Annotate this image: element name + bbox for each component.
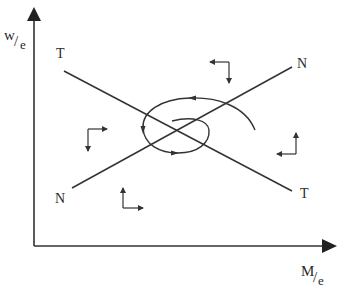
label-t-end: T — [300, 186, 309, 201]
curve-nn: N N — [55, 56, 307, 206]
label-n-start: N — [55, 191, 65, 206]
svg-text:/: / — [14, 33, 19, 49]
direction-arrows-right — [277, 133, 296, 154]
direction-arrows-top — [210, 62, 229, 83]
x-axis-arrow-icon — [322, 239, 337, 253]
spiral-arrow-left-icon — [188, 96, 196, 101]
y-axis-arrow-icon — [27, 7, 41, 21]
label-n-end: N — [297, 56, 307, 71]
x-axis-label: M / e — [301, 263, 324, 287]
direction-arrows-bottom — [123, 188, 143, 208]
spiral-trajectory — [141, 96, 256, 156]
y-axis — [27, 7, 41, 246]
label-t-start: T — [56, 46, 65, 61]
x-axis — [34, 239, 337, 253]
spiral-arrow-down-icon — [141, 126, 146, 134]
svg-text:e: e — [20, 37, 26, 52]
phase-diagram: w / e M / e T T N N — [0, 0, 344, 287]
direction-arrows-left — [88, 129, 107, 151]
y-axis-label: w / e — [4, 27, 26, 52]
svg-text:e: e — [318, 273, 324, 287]
spiral-arrow-right-icon — [171, 151, 179, 156]
curve-tt: T T — [56, 46, 309, 201]
